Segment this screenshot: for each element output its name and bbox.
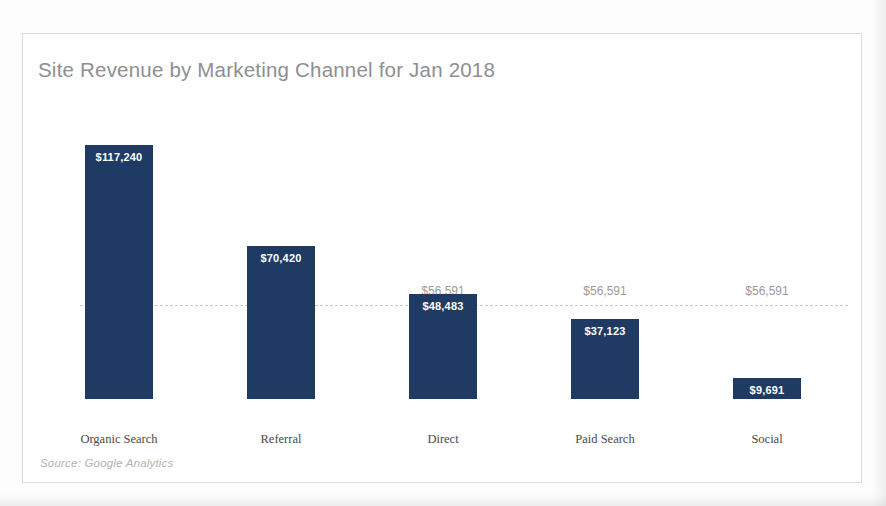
bar-value-label: $70,420 — [247, 252, 315, 264]
category-label-referral: Referral — [200, 432, 362, 454]
source-note: Source: Google Analytics — [40, 457, 174, 469]
chart-title: Site Revenue by Marketing Channel for Ja… — [38, 58, 495, 82]
bar-slot: $56,591 $117,240 — [38, 114, 200, 399]
bar-slot: $56,591 $48,483 — [362, 114, 524, 399]
bar-direct[interactable]: $48,483 — [409, 294, 477, 399]
bar-paid-search[interactable]: $37,123 — [571, 319, 639, 399]
reference-value-label: $56,591 — [524, 284, 686, 298]
bar-series: $56,591 $117,240 $56,591 $70,420 $56,591… — [38, 114, 848, 399]
bar-referral[interactable]: $70,420 — [247, 246, 315, 399]
scanned-page: Site Revenue by Marketing Channel for Ja… — [0, 0, 886, 506]
plot-area: $56,591 $117,240 $56,591 $70,420 $56,591… — [38, 114, 848, 399]
bar-value-label: $9,691 — [733, 384, 801, 396]
chart-card: Site Revenue by Marketing Channel for Ja… — [22, 33, 862, 483]
reference-value-label: $56,591 — [686, 284, 848, 298]
bar-value-label: $37,123 — [571, 325, 639, 337]
scan-edge-shadow — [872, 0, 886, 506]
bar-slot: $56,591 $37,123 — [524, 114, 686, 399]
bar-value-label: $48,483 — [409, 300, 477, 312]
scan-bottom-shadow — [0, 494, 886, 506]
category-label-organic-search: Organic Search — [38, 432, 200, 454]
category-axis: Organic Search Referral Direct Paid Sear… — [38, 432, 848, 454]
bar-social[interactable]: $9,691 — [733, 378, 801, 399]
bar-slot: $56,591 $70,420 — [200, 114, 362, 399]
category-label-direct: Direct — [362, 432, 524, 454]
bar-value-label: $117,240 — [85, 151, 153, 163]
category-label-paid-search: Paid Search — [524, 432, 686, 454]
category-label-social: Social — [686, 432, 848, 454]
bar-slot: $56,591 $9,691 — [686, 114, 848, 399]
bar-organic-search[interactable]: $117,240 — [85, 145, 153, 399]
